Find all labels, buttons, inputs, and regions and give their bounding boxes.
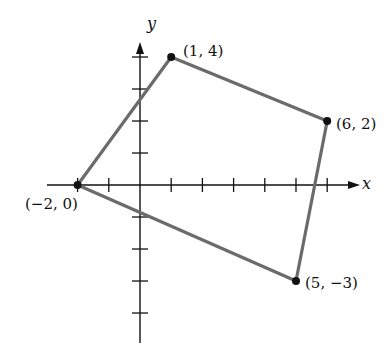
x-axis-label: x	[362, 176, 371, 192]
point-label-b: (1, 4)	[183, 44, 223, 59]
vertex-dot	[323, 117, 331, 125]
quadrilateral	[78, 57, 328, 281]
vertex-dot	[74, 181, 82, 189]
axes	[47, 50, 352, 343]
vertex-dot	[167, 53, 175, 61]
y-axis-label: y	[147, 16, 156, 32]
point-label-a: (−2, 0)	[25, 197, 78, 212]
vertex-dot	[292, 277, 300, 285]
vertex-points	[74, 53, 332, 285]
y-axis-arrow-icon	[136, 42, 144, 54]
point-label-d: (5, −3)	[305, 276, 358, 291]
x-axis-arrow-icon	[348, 181, 360, 189]
point-label-c: (6, 2)	[336, 117, 376, 132]
